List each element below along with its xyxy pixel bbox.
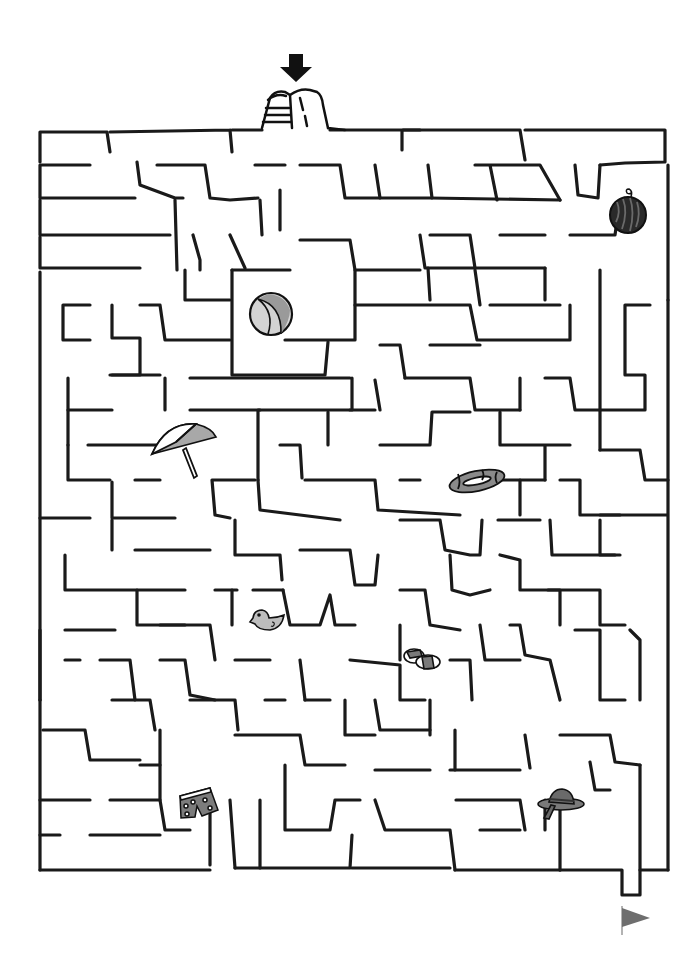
- maze-wall: [157, 165, 258, 200]
- maze-wall: [400, 555, 490, 660]
- maze-wall: [40, 518, 112, 550]
- maze-wall: [575, 165, 600, 198]
- maze-wall: [600, 300, 668, 870]
- maze-wall: [40, 237, 140, 268]
- maze-wall: [500, 412, 570, 480]
- maze-wall: [350, 410, 470, 445]
- maze-walls: [40, 130, 668, 895]
- maze-wall: [110, 130, 232, 152]
- maze-wall: [456, 800, 545, 830]
- maze-wall: [160, 660, 215, 700]
- maze-wall: [600, 520, 615, 555]
- water-slide-icon: [262, 90, 345, 130]
- maze-wall: [375, 800, 455, 870]
- maze-wall: [235, 735, 345, 765]
- maze-wall: [40, 165, 135, 198]
- maze-wall: [350, 660, 425, 700]
- maze-wall: [520, 480, 620, 515]
- rubber-duck-icon: [250, 610, 284, 630]
- maze-wall: [403, 130, 665, 165]
- maze-wall: [212, 480, 255, 518]
- maze-wall: [235, 520, 282, 580]
- maze-wall: [112, 700, 160, 765]
- maze-wall: [420, 235, 545, 268]
- maze-wall: [450, 625, 520, 700]
- maze-wall: [260, 200, 420, 270]
- maze-wall: [375, 700, 430, 730]
- swim-trunks-icon: [180, 788, 218, 818]
- maze-wall: [40, 132, 110, 162]
- maze-wall: [65, 550, 210, 590]
- maze-wall: [258, 480, 340, 520]
- maze-wall: [355, 305, 570, 340]
- maze-wall: [63, 305, 90, 340]
- flag-icon: [622, 906, 650, 935]
- maze-wall: [190, 700, 285, 730]
- maze-wall: [428, 268, 480, 305]
- maze-wall: [110, 800, 190, 830]
- maze-wall: [475, 165, 560, 200]
- maze-wall: [190, 378, 352, 410]
- maze-wall: [305, 700, 375, 735]
- maze-wall: [110, 305, 140, 375]
- maze-wall: [510, 625, 560, 700]
- maze-wall: [300, 550, 378, 585]
- maze-wall: [137, 162, 183, 198]
- maze-wall: [68, 410, 160, 445]
- beach-ball-icon: [250, 293, 292, 335]
- maze-wall: [430, 700, 455, 770]
- maze-wall: [193, 235, 245, 270]
- maze-board: [0, 0, 693, 980]
- maze-wall: [500, 200, 620, 235]
- maze-wall: [285, 765, 360, 830]
- maze-wall: [590, 762, 640, 870]
- maze-wall: [40, 200, 177, 270]
- maze-wall: [600, 450, 668, 480]
- maze-wall: [375, 165, 432, 198]
- maze-wall: [68, 445, 110, 480]
- maze-wall: [380, 345, 480, 378]
- maze-wall: [140, 305, 230, 340]
- beach-umbrella-icon: [152, 424, 216, 478]
- down-arrow-icon: [280, 54, 312, 82]
- maze-wall: [305, 480, 460, 515]
- maze-wall: [40, 835, 352, 870]
- sandals-icon: [404, 649, 440, 669]
- maze-wall: [112, 480, 175, 518]
- maze-wall: [560, 870, 668, 895]
- maze-wall: [520, 378, 600, 410]
- maze-wall: [165, 378, 260, 410]
- maze-wall: [258, 410, 350, 480]
- maze-wall: [283, 590, 355, 625]
- watermelon-icon: [610, 189, 646, 233]
- swim-ring-icon: [448, 465, 507, 496]
- maze-wall: [43, 730, 140, 760]
- maze-wall: [400, 520, 482, 555]
- maze-wall: [498, 520, 620, 555]
- maze-wall: [600, 305, 650, 410]
- maze-wall: [235, 660, 305, 700]
- maze-wall: [285, 270, 355, 340]
- maze-wall: [232, 130, 420, 150]
- maze-wall: [280, 412, 328, 478]
- maze-wall: [400, 590, 460, 630]
- maze-wall: [65, 660, 135, 700]
- maze-wall: [575, 630, 625, 700]
- maze-wall: [185, 270, 230, 300]
- maze-wall: [160, 590, 237, 625]
- maze-wall: [68, 375, 160, 410]
- maze-wall: [375, 378, 520, 410]
- maze-wall: [525, 735, 640, 768]
- maze-wall: [40, 630, 115, 700]
- maze-wall: [545, 268, 600, 450]
